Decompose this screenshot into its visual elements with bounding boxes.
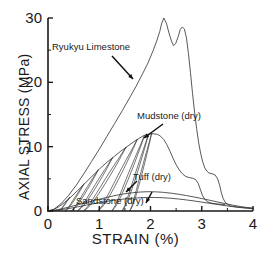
x-axis-title: STRAIN (%) (0, 230, 271, 247)
annotation-label-ryukyu-limestone: Ryukyu Limestone (52, 41, 130, 52)
annotation-label-tuff-dry: Tuff (dry) (133, 171, 171, 182)
annotation-label-sandstone-dry: Sandstone (dry) (76, 195, 144, 206)
x-tick-label: 3 (188, 215, 216, 232)
annotation-label-mudstone-dry: Mudstone (dry) (137, 110, 201, 121)
x-tick-label: 2 (137, 215, 165, 232)
stress-strain-chart: STRAIN (%) AXIAL STRESS (MPa) 01234 0102… (0, 0, 271, 253)
x-tick-label: 1 (85, 215, 113, 232)
x-tick-label: 4 (239, 215, 267, 232)
y-tick-label: 0 (12, 202, 42, 219)
y-tick-label: 20 (12, 73, 42, 90)
y-tick-label: 10 (12, 138, 42, 155)
y-tick-label: 30 (12, 9, 42, 26)
